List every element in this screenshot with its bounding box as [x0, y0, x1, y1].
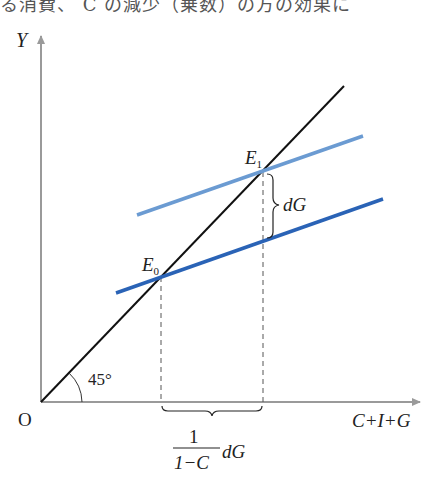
- origin-label: O: [18, 409, 32, 430]
- e1-label: E1: [244, 147, 262, 170]
- multiplier-brace: [162, 406, 262, 416]
- dg-brace: [267, 174, 279, 238]
- e0-label: E0: [141, 254, 160, 277]
- multiplier-denominator: 1−C: [174, 452, 209, 473]
- e0-subscript: 0: [154, 265, 160, 277]
- e0-letter: E: [141, 254, 154, 275]
- multiplier-suffix: dG: [222, 441, 246, 462]
- angle-arc: [69, 373, 82, 402]
- 45-degree-line: [41, 86, 344, 402]
- y-axis-label: Y: [16, 29, 29, 51]
- angle-label: 45°: [88, 370, 112, 389]
- multiplier-numerator: 1: [189, 426, 199, 447]
- x-axis-label: C+I+G: [352, 410, 411, 431]
- e1-subscript: 1: [257, 158, 263, 170]
- dg-label: dG: [283, 194, 307, 215]
- aggregate-expenditure-initial-line: [116, 199, 383, 293]
- keynesian-cross-diagram: 45° dG 1 1−C dG Y O C+I+G E0 E1: [0, 0, 440, 479]
- e1-letter: E: [244, 147, 257, 168]
